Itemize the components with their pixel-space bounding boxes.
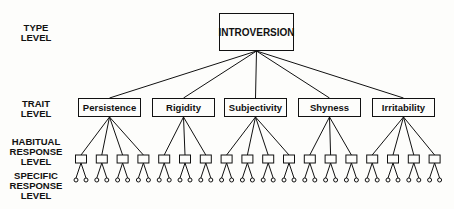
type-node-introversion: INTROVERSION bbox=[219, 13, 294, 51]
specific-response-node bbox=[230, 178, 234, 182]
habitual-response-node bbox=[325, 155, 336, 163]
label-line: LEVEL bbox=[6, 109, 66, 119]
habitual-response-node bbox=[429, 155, 440, 163]
specific-response-node bbox=[417, 178, 421, 182]
trait-node-persistence: Persistence bbox=[78, 98, 141, 117]
trait-level-label: TRAIT LEVEL bbox=[6, 99, 66, 119]
habitual-response-node bbox=[138, 155, 149, 163]
specific-response-node bbox=[386, 178, 390, 182]
habitual-response-node bbox=[367, 155, 378, 163]
specific-response-node bbox=[365, 178, 369, 182]
habitual-response-node bbox=[180, 155, 191, 163]
trait-node-shyness: Shyness bbox=[298, 98, 361, 117]
specific-response-node bbox=[407, 178, 411, 182]
specific-response-node bbox=[375, 178, 379, 182]
habitual-response-node bbox=[200, 155, 211, 163]
habitual-response-node bbox=[242, 155, 253, 163]
specific-response-node bbox=[220, 178, 224, 182]
specific-response-node bbox=[240, 178, 244, 182]
habitual-response-node bbox=[408, 155, 419, 163]
type-level-label: TYPE LEVEL bbox=[6, 23, 66, 43]
habitual-response-node bbox=[117, 155, 128, 163]
habitual-response-node bbox=[346, 155, 357, 163]
specific-response-node bbox=[167, 178, 171, 182]
specific-response-node bbox=[354, 178, 358, 182]
specific-response-node bbox=[271, 178, 275, 182]
specific-response-node bbox=[282, 178, 286, 182]
label-line: LEVEL bbox=[6, 157, 66, 167]
habitual-response-level-label: HABITUAL RESPONSE LEVEL bbox=[6, 137, 66, 167]
specific-response-node bbox=[261, 178, 265, 182]
specific-response-node bbox=[84, 178, 88, 182]
specific-response-node bbox=[334, 178, 338, 182]
specific-response-level-label: SPECIFIC RESPONSE LEVEL bbox=[6, 171, 66, 201]
specific-response-node bbox=[344, 178, 348, 182]
specific-response-node bbox=[146, 178, 150, 182]
specific-response-node bbox=[157, 178, 161, 182]
label-line: LEVEL bbox=[6, 191, 66, 201]
habitual-response-node bbox=[159, 155, 170, 163]
introversion-hierarchy-diagram: TYPE LEVEL TRAIT LEVEL HABITUAL RESPONSE… bbox=[0, 0, 454, 209]
trait-node-rigidity: Rigidity bbox=[152, 98, 215, 117]
specific-response-node bbox=[250, 178, 254, 182]
specific-response-node bbox=[396, 178, 400, 182]
specific-response-node bbox=[292, 178, 296, 182]
specific-response-node bbox=[313, 178, 317, 182]
habitual-response-node bbox=[388, 155, 399, 163]
habitual-response-node bbox=[304, 155, 315, 163]
specific-response-node bbox=[188, 178, 192, 182]
habitual-response-node bbox=[221, 155, 232, 163]
trait-node-irritability: Irritability bbox=[372, 98, 435, 117]
specific-response-node bbox=[74, 178, 78, 182]
specific-response-node bbox=[105, 178, 109, 182]
specific-response-node bbox=[428, 178, 432, 182]
trait-node-subjectivity: Subjectivity bbox=[224, 98, 287, 117]
label-line: LEVEL bbox=[6, 33, 66, 43]
habitual-response-node bbox=[96, 155, 107, 163]
specific-response-node bbox=[95, 178, 99, 182]
specific-response-node bbox=[209, 178, 213, 182]
specific-response-node bbox=[199, 178, 203, 182]
specific-response-node bbox=[324, 178, 328, 182]
specific-response-node bbox=[126, 178, 130, 182]
habitual-response-node bbox=[284, 155, 295, 163]
specific-response-node bbox=[178, 178, 182, 182]
habitual-response-node bbox=[76, 155, 87, 163]
specific-response-node bbox=[303, 178, 307, 182]
habitual-response-node bbox=[263, 155, 274, 163]
specific-response-node bbox=[116, 178, 120, 182]
specific-response-node bbox=[438, 178, 442, 182]
specific-response-node bbox=[136, 178, 140, 182]
